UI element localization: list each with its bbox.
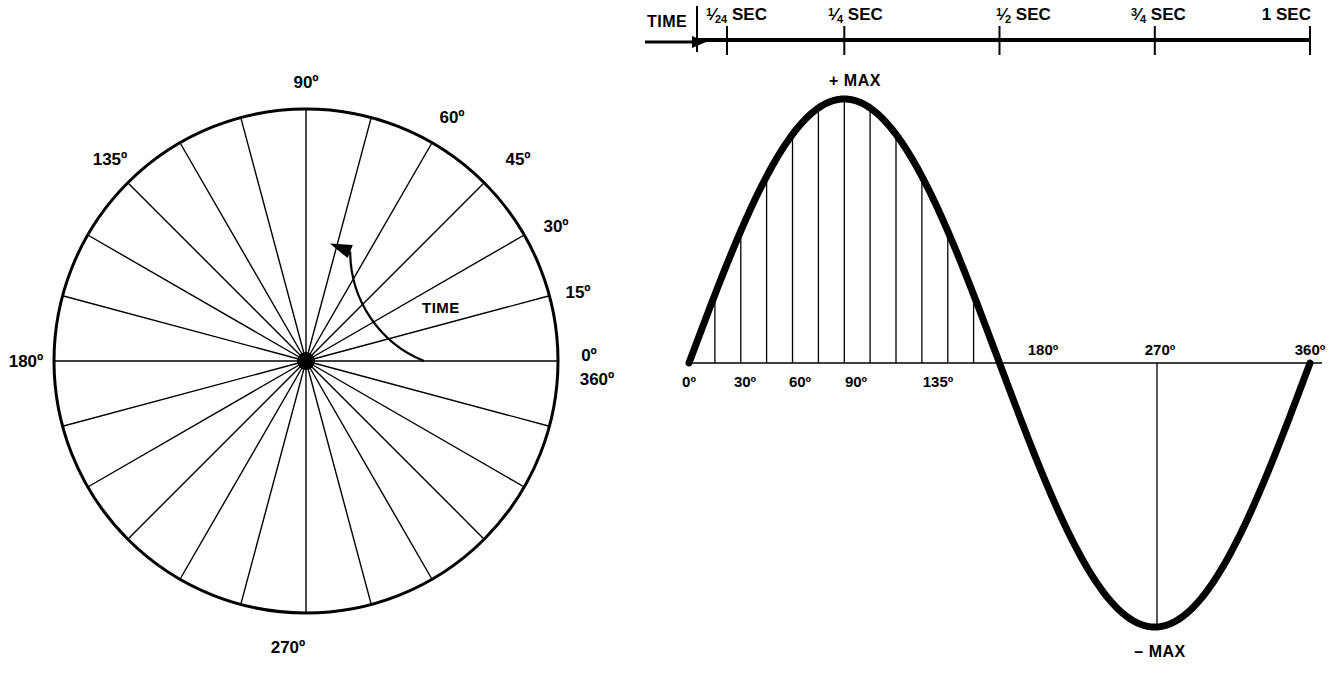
circle-label-135: 135º <box>93 150 128 169</box>
radial-spoke-30 <box>306 235 524 361</box>
peak-label: + MAX <box>829 72 881 89</box>
circle-label-45: 45º <box>505 150 530 169</box>
radial-spoke-75 <box>306 118 371 361</box>
sine-xtick-60: 60º <box>789 373 812 390</box>
circle-label-30: 30º <box>543 217 568 236</box>
radial-spoke-195 <box>63 361 306 426</box>
circle-label-60: 60º <box>439 108 464 127</box>
circle-label-270: 270º <box>271 638 306 657</box>
time-tick-label-1-2: 1⁄2 SEC <box>996 5 1051 25</box>
unit-3-4: SEC <box>1151 5 1186 24</box>
radial-spoke-210 <box>88 361 306 487</box>
radial-spoke-60 <box>306 143 432 361</box>
time-axis-label: TIME <box>647 13 687 30</box>
frac-1-24: 1⁄24 SEC <box>706 5 767 25</box>
rotating-vector-circle: TIME 90º 60º 45º 30º 15º 0º 360º 135º 18… <box>9 73 615 657</box>
circle-time-label: TIME <box>422 299 460 316</box>
frac-1: 1 SEC <box>1262 5 1311 24</box>
radial-spoke-240 <box>180 361 306 579</box>
sine-xtick-270: 270º <box>1145 341 1176 358</box>
radial-spoke-300 <box>306 361 432 579</box>
sine-xtick-135: 135º <box>923 373 954 390</box>
figure-root: TIME 90º 60º 45º 30º 15º 0º 360º 135º 18… <box>0 0 1337 676</box>
unit-1-2: SEC <box>1016 5 1051 24</box>
time-axis: TIME 1⁄24 SEC 1⁄4 SEC 1⁄2 SEC <box>645 5 1311 55</box>
circle-label-0: 0º <box>581 346 597 365</box>
time-tick-label-1-24: 1⁄24 SEC <box>706 5 767 25</box>
circle-label-90: 90º <box>293 73 318 92</box>
frac-1-4: 1⁄4 SEC <box>828 5 883 25</box>
radial-spoke-150 <box>88 235 306 361</box>
sine-wave-plot: + MAX – MAX 0º 30º 60º 90º 135º 180º 270… <box>682 72 1326 660</box>
unit-1-24: SEC <box>732 5 767 24</box>
sine-ordinate-lines <box>715 99 974 363</box>
radial-spoke-345 <box>306 361 549 426</box>
sine-xtick-30: 30º <box>734 373 757 390</box>
radial-spoke-315 <box>306 361 484 539</box>
circle-center-hub <box>297 352 315 370</box>
whole-1: 1 <box>1262 5 1271 24</box>
radial-spoke-255 <box>241 361 306 604</box>
radial-spoke-330 <box>306 361 524 487</box>
time-tick-label-1: 1 SEC <box>1262 5 1311 24</box>
sine-xtick-180: 180º <box>1028 341 1059 358</box>
radial-spoke-105 <box>241 118 306 361</box>
unit-1-4: SEC <box>848 5 883 24</box>
radial-spoke-120 <box>180 143 306 361</box>
radial-spoke-135 <box>128 183 306 361</box>
time-tick-label-3-4: 3⁄4 SEC <box>1131 5 1186 25</box>
sine-xtick-360: 360º <box>1295 341 1326 358</box>
time-tick-label-1-4: 1⁄4 SEC <box>828 5 883 25</box>
radial-spoke-165 <box>63 296 306 361</box>
trough-label: – MAX <box>1134 643 1185 660</box>
radial-spoke-285 <box>306 361 371 604</box>
frac-1-2: 1⁄2 SEC <box>996 5 1051 25</box>
sine-xtick-90: 90º <box>845 373 868 390</box>
circle-label-180: 180º <box>9 352 44 371</box>
frac-den-1-24: 24 <box>715 13 728 25</box>
radial-spoke-45 <box>306 183 484 361</box>
radial-spoke-225 <box>128 361 306 539</box>
unit-1: SEC <box>1276 5 1311 24</box>
circle-label-15: 15º <box>565 283 590 302</box>
sine-xtick-0: 0º <box>682 373 696 390</box>
frac-3-4: 3⁄4 SEC <box>1131 5 1186 25</box>
figure-canvas: TIME 90º 60º 45º 30º 15º 0º 360º 135º 18… <box>0 0 1337 676</box>
circle-label-360: 360º <box>580 370 615 389</box>
